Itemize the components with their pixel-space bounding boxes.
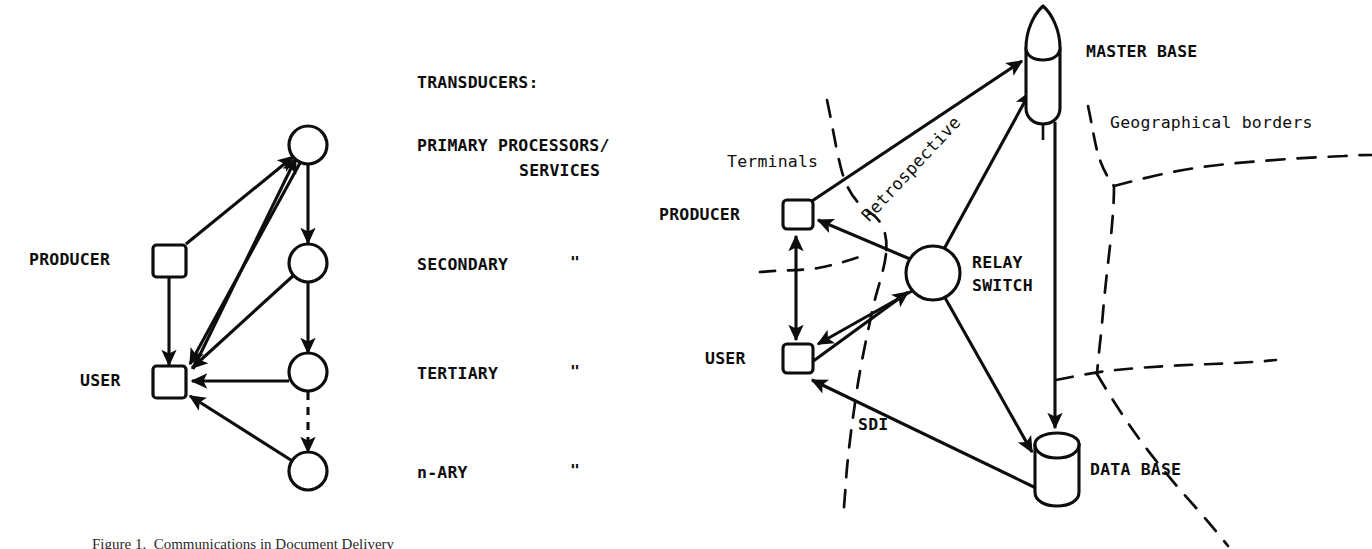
right-producer-label: PRODUCER <box>659 205 740 224</box>
edge-relay-to-master-base <box>944 92 1030 249</box>
edge-relay-to-data-base <box>944 296 1032 452</box>
border-central-vertical <box>1097 186 1114 374</box>
border-west-spur <box>760 256 862 272</box>
figure-root: PRODUCER USER TRANSDUCERS: PRIMARY PROCE… <box>0 0 1372 549</box>
geographical-borders-label: Geographical borders <box>1110 113 1313 132</box>
data-base-inner-curve <box>1035 444 1079 458</box>
relay-switch-label-line2: SWITCH <box>972 276 1033 295</box>
master-base-neck-ellipse <box>1026 48 1060 60</box>
edge-relay-to-producer <box>818 220 910 259</box>
border-west-lower <box>843 254 886 518</box>
edge-producer-to-master-base <box>812 61 1022 201</box>
edge-user-to-relay <box>812 292 908 362</box>
node-data-base[interactable] <box>1035 433 1079 506</box>
right-user-label: USER <box>705 349 746 368</box>
border-west-vertical <box>827 100 886 254</box>
border-east-horizontal <box>1114 155 1372 186</box>
border-south-horizontal <box>1056 360 1276 380</box>
figure-caption: Figure 1. Communications in Document Del… <box>92 536 712 549</box>
node-master-base[interactable] <box>1026 6 1060 140</box>
data-base-label: DATA BASE <box>1090 460 1181 479</box>
sdi-label: SDI <box>858 415 888 434</box>
node-right-user-square[interactable] <box>783 344 813 373</box>
terminals-label: Terminals <box>727 152 818 171</box>
master-base-cone-top <box>1026 6 1060 48</box>
node-relay-switch[interactable] <box>906 246 960 300</box>
node-right-producer-square[interactable] <box>783 200 813 229</box>
master-base-label: MASTER BASE <box>1086 42 1197 61</box>
relay-switch-label-line1: RELAY <box>972 253 1023 272</box>
right-diagram-nodes <box>783 6 1079 506</box>
